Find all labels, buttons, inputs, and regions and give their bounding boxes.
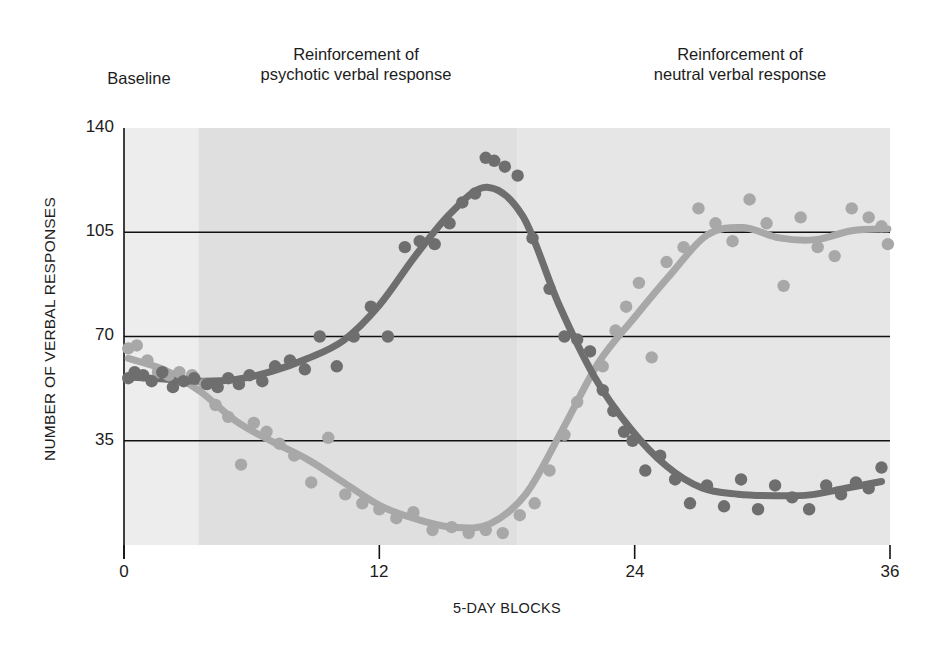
legend-swatch-neutral (200, 140, 238, 145)
phase-label-psychotic-reinforcement: Reinforcement of psychotic verbal respon… (196, 44, 516, 84)
figure-chart: Baseline Reinforcement of psychotic verb… (0, 0, 938, 645)
legend: Neutral verbal response Psychotic verbal… (200, 132, 440, 218)
phase-label-neutral-reinforcement: Reinforcement of neutral verbal response (590, 44, 890, 84)
y-tick-35: 35 (54, 430, 114, 450)
y-tick-70: 70 (54, 325, 114, 345)
y-tick-105: 105 (54, 221, 114, 241)
y-tick-140: 140 (54, 117, 114, 137)
x-tick-0: 0 (104, 562, 144, 582)
x-tick-12: 12 (359, 562, 399, 582)
legend-item-neutral: Neutral verbal response (200, 132, 440, 171)
fitted-curves (128, 187, 888, 528)
x-tick-24: 24 (615, 562, 655, 582)
x-tick-36: 36 (870, 562, 910, 582)
y-axis-tick-labels: 140 105 70 35 (52, 0, 114, 645)
legend-label-psychotic: Psychotic verbal response (249, 175, 366, 214)
gridlines (124, 232, 890, 441)
legend-swatch-psychotic (200, 183, 238, 188)
legend-label-neutral: Neutral verbal response (249, 132, 349, 171)
x-axis-title: 5-DAY BLOCKS (124, 600, 890, 616)
legend-item-psychotic: Psychotic verbal response (200, 175, 440, 214)
plot-canvas (0, 0, 938, 645)
